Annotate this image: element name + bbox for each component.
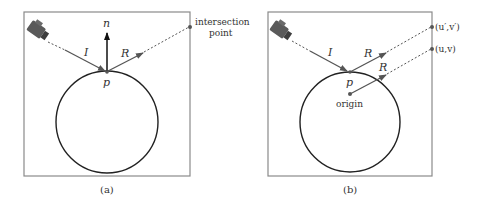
panel-a: n I R p intersection point (a): [24, 12, 250, 195]
origin-dot: [348, 92, 352, 96]
camera-icon: [269, 17, 295, 41]
label-intersection: intersection: [195, 17, 250, 27]
label-R: R: [120, 47, 129, 60]
point-p-dot: [105, 70, 109, 74]
label-R-origin: R: [378, 61, 387, 74]
label-I: I: [327, 46, 333, 59]
label-intersection-point: point: [209, 28, 233, 38]
figure-canvas: n I R p intersection point (a) I R R p: [0, 0, 484, 202]
uv-prime-dot: [430, 25, 434, 29]
caption-a: (a): [100, 184, 114, 195]
camera-ray-dashed: [48, 42, 65, 50]
reflected-ray-dashed: [144, 27, 189, 52]
reflected-arrow-from-origin: [350, 75, 386, 94]
label-uv-prime: (u′,v′): [435, 22, 460, 32]
camera-ray-dashed: [292, 41, 310, 51]
panel-b: I R R p origin (u′,v′) (u,v) (b): [268, 12, 460, 195]
camera-icon: [26, 17, 52, 41]
label-I: I: [83, 46, 89, 59]
label-n: n: [103, 17, 110, 30]
label-origin: origin: [336, 99, 363, 109]
label-p: p: [103, 76, 110, 89]
reflected-ray-dashed-origin: [387, 49, 431, 74]
label-uv: (u,v): [435, 44, 456, 54]
label-R-p: R: [363, 47, 372, 60]
intersection-dot: [188, 25, 192, 29]
label-p: p: [346, 76, 353, 89]
reflected-ray-dashed-p: [387, 27, 431, 52]
caption-b: (b): [343, 184, 357, 195]
uv-dot: [430, 47, 434, 51]
point-p-dot: [348, 70, 352, 74]
